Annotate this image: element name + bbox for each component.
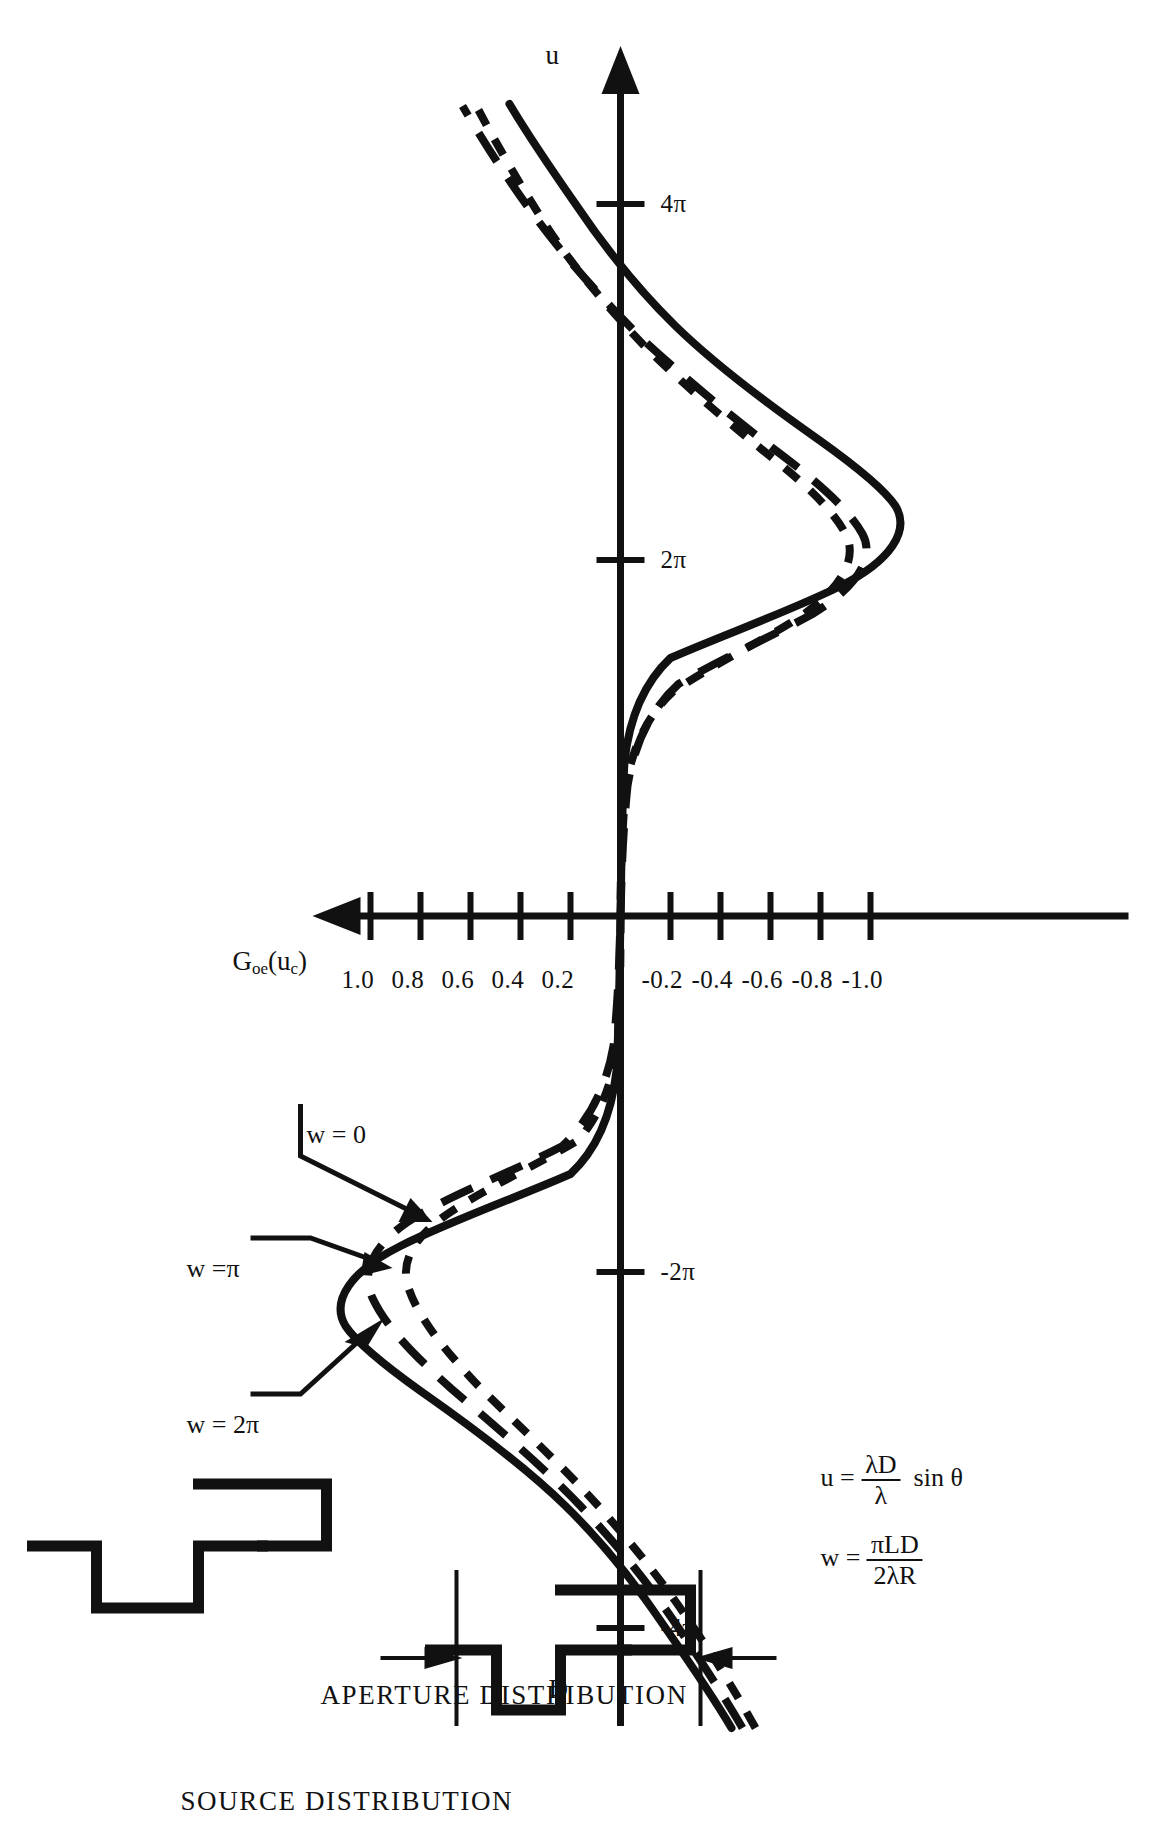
formula-w-denominator: 2λR (866, 1559, 922, 1590)
aperture-width-label: D (548, 1674, 568, 1705)
formula-u-denominator: λ (861, 1479, 900, 1510)
formula-w-fraction: πLD 2λR (866, 1530, 922, 1590)
annotation-w-pi: w =π (186, 1254, 239, 1284)
source-distribution-shape (32, 1484, 326, 1608)
caption-aperture-distribution: APERTURE DISTRIBUTION (320, 1680, 687, 1711)
y-tick-label-0-8: 0.8 (391, 966, 424, 994)
rotated-figure-group: u Goe(uc) -4π -2π 2π 4π 1.0 0.8 0.6 0. (0, 0, 1161, 1846)
formula-w-numerator: πLD (866, 1530, 922, 1559)
y-tick-label-minus-0-4: -0.4 (691, 966, 733, 994)
x-tick-label-4pi: 4π (660, 190, 686, 218)
y-axis-label: Goe(uc) (232, 946, 307, 979)
figure-canvas: u Goe(uc) -4π -2π 2π 4π 1.0 0.8 0.6 0. (0, 0, 1161, 1846)
y-tick-label-minus-0-2: -0.2 (641, 966, 683, 994)
x-tick-label-2pi: 2π (660, 546, 686, 574)
formula-u-lhs: u (820, 1463, 833, 1492)
formula-u-numerator: λD (861, 1450, 900, 1479)
y-tick-label-0-6: 0.6 (441, 966, 474, 994)
x-tick-label-minus-2pi: -2π (660, 1258, 695, 1286)
y-axis-label-sub-oe: oe (252, 959, 268, 978)
formula-u-fraction: λD λ (861, 1450, 900, 1510)
formula-w-equals: = (845, 1543, 860, 1572)
y-tick-label-1-0: 1.0 (341, 966, 374, 994)
y-axis-label-sub-c: c (290, 959, 298, 978)
formula-w: w = πLD 2λR (820, 1530, 922, 1590)
y-tick-label-minus-0-6: -0.6 (741, 966, 783, 994)
y-tick-label-0-4: 0.4 (491, 966, 524, 994)
annotation-w-0: w = 0 (306, 1120, 365, 1150)
x-axis-label: u (545, 40, 559, 71)
distribution-inset-graphic (0, 1326, 1161, 1846)
y-tick-label-0-2: 0.2 (541, 966, 574, 994)
formula-u-equals: = (840, 1463, 855, 1492)
caption-source-distribution: SOURCE DISTRIBUTION (180, 1786, 513, 1817)
formula-u-trailing: sin θ (913, 1463, 962, 1492)
y-tick-label-minus-0-8: -0.8 (791, 966, 833, 994)
formula-w-lhs: w (820, 1543, 839, 1572)
y-tick-label-minus-1-0: -1.0 (841, 966, 883, 994)
formula-u: u = λD λ sin θ (820, 1450, 962, 1510)
annotation-leader-w-pi (250, 1238, 392, 1276)
